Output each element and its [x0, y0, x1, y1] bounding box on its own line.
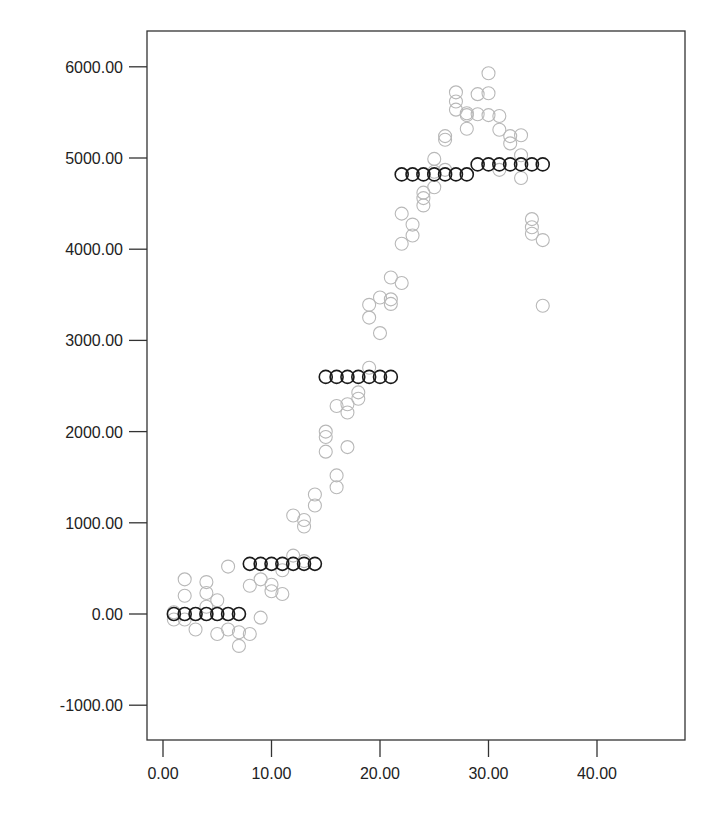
- data-point-observed: [341, 441, 354, 454]
- y-tick-label: 4000.00: [65, 241, 123, 258]
- data-point-observed: [460, 122, 473, 135]
- x-tick-label: 40.00: [577, 765, 617, 782]
- y-tick-label: 5000.00: [65, 150, 123, 167]
- y-tick-label: 1000.00: [65, 515, 123, 532]
- x-tick-label: 20.00: [360, 765, 400, 782]
- data-point-observed: [395, 276, 408, 289]
- data-point-observed: [319, 425, 332, 438]
- data-point-observed: [254, 611, 267, 624]
- data-point-observed: [319, 431, 332, 444]
- data-point-observed: [178, 573, 191, 586]
- data-point-observed: [428, 152, 441, 165]
- data-point-observed: [341, 406, 354, 419]
- scatter-chart: 6000.005000.004000.003000.002000.001000.…: [0, 0, 719, 813]
- data-point-observed: [417, 192, 430, 205]
- data-point-observed: [536, 234, 549, 247]
- data-point-observed: [330, 469, 343, 482]
- data-point-observed: [525, 213, 538, 226]
- data-point-observed: [211, 594, 224, 607]
- plot-frame: [147, 31, 685, 740]
- data-point-observed: [395, 237, 408, 250]
- series-fitted: [167, 158, 549, 621]
- x-tick-label: 0.00: [147, 765, 178, 782]
- data-point-observed: [189, 623, 202, 636]
- y-axis: 6000.005000.004000.003000.002000.001000.…: [60, 59, 147, 714]
- data-point-observed: [417, 199, 430, 212]
- data-point-observed: [395, 207, 408, 220]
- y-tick-label: 0.00: [92, 606, 123, 623]
- data-point-observed: [482, 67, 495, 80]
- data-point-observed: [374, 327, 387, 340]
- x-tick-label: 10.00: [251, 765, 291, 782]
- data-point-observed: [449, 86, 462, 99]
- data-point-observed: [222, 560, 235, 573]
- x-tick-label: 30.00: [468, 765, 508, 782]
- y-tick-label: 2000.00: [65, 424, 123, 441]
- data-point-observed: [330, 481, 343, 494]
- x-axis: 0.0010.0020.0030.0040.00: [147, 740, 617, 782]
- y-tick-label: 6000.00: [65, 59, 123, 76]
- series-observed: [167, 67, 549, 653]
- y-tick-label: -1000.00: [60, 697, 123, 714]
- data-point-observed: [232, 639, 245, 652]
- data-point-observed: [504, 137, 517, 150]
- data-point-observed: [515, 172, 528, 185]
- data-point-observed: [439, 133, 452, 146]
- data-point-observed: [319, 445, 332, 458]
- data-point-observed: [536, 299, 549, 312]
- data-point-observed: [178, 589, 191, 602]
- data-point-observed: [439, 130, 452, 143]
- data-point-observed: [363, 311, 376, 324]
- y-tick-label: 3000.00: [65, 332, 123, 349]
- data-point-observed: [428, 181, 441, 194]
